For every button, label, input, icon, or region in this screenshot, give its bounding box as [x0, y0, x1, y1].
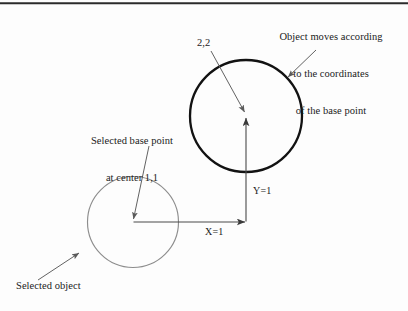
annotation-object-moves: Object moves according to the coordinate…	[258, 6, 404, 142]
annotation-object-moves-line2: to the coordinates	[258, 68, 404, 80]
annotation-selected-object: Selected object	[16, 280, 81, 292]
annotation-base-point-line2: at center 1,1	[62, 172, 202, 184]
annotation-object-moves-line1: Object moves according	[258, 31, 404, 43]
annotation-object-moves-line3: of the base point	[258, 105, 404, 117]
label-x-offset: X=1	[205, 226, 223, 238]
annotation-selected-base-point: Selected base point at center 1,1	[62, 110, 202, 209]
label-destination-coordinate: 2,2	[197, 37, 210, 49]
figure-container: Object moves according to the coordinate…	[0, 0, 408, 311]
selected-object-leader-line	[38, 253, 79, 280]
label-y-offset: Y=1	[253, 185, 271, 197]
annotation-base-point-line1: Selected base point	[62, 135, 202, 147]
